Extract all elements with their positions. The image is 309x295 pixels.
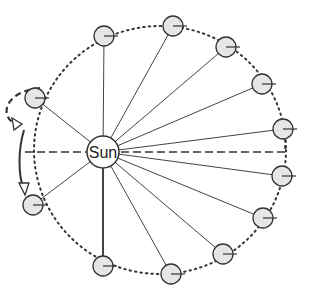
sun-planet-line	[103, 47, 226, 152]
orbit-path	[34, 26, 286, 274]
arrowhead-icon	[12, 118, 22, 130]
solid-motion-arrow	[20, 130, 25, 190]
sun-planet-line	[103, 152, 282, 176]
sun-planet-line	[103, 36, 104, 152]
arrowhead-icon	[19, 183, 29, 195]
sun-planet-line	[103, 152, 171, 274]
sun-label: Sun	[89, 144, 117, 161]
heliocentric-orbit-diagram: Sun	[0, 0, 309, 295]
sun-planet-line	[103, 26, 173, 152]
sun-planet-line	[103, 152, 223, 254]
sun-planet-line	[103, 152, 263, 218]
diagram-canvas: Sun	[0, 0, 309, 295]
